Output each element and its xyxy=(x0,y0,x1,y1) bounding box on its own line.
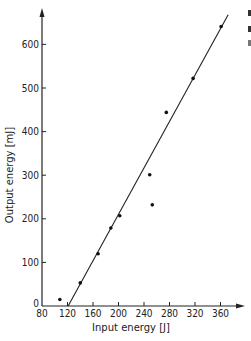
cropped-text-fragment xyxy=(248,26,251,32)
x-ticks: 80120160200240280320360 xyxy=(36,302,229,319)
fit-line xyxy=(68,15,228,306)
y-tick-label: 200 xyxy=(22,213,39,224)
y-axis-arrow-icon xyxy=(40,8,45,17)
x-tick-label: 200 xyxy=(110,308,127,319)
y-axis-title: Output energy [mJ] xyxy=(4,127,15,224)
data-point xyxy=(165,111,169,115)
x-tick-label: 280 xyxy=(161,308,178,319)
cropped-text-fragment xyxy=(248,10,251,16)
y-tick-label: 100 xyxy=(22,257,39,268)
y-tick-label: 500 xyxy=(22,83,39,94)
y-tick-label: 300 xyxy=(22,170,39,181)
data-point xyxy=(150,203,154,207)
axes xyxy=(40,8,246,309)
x-tick-label: 120 xyxy=(59,308,76,319)
data-point xyxy=(148,173,152,177)
data-points xyxy=(58,25,223,302)
data-point xyxy=(191,77,195,81)
x-tick-label: 80 xyxy=(36,308,48,319)
data-point xyxy=(109,226,113,230)
x-tick-label: 160 xyxy=(84,308,101,319)
data-point xyxy=(118,214,122,218)
data-point xyxy=(78,281,82,285)
x-tick-label: 360 xyxy=(212,308,229,319)
y-tick-label: 600 xyxy=(22,39,39,50)
x-axis-title: Input energy [J] xyxy=(92,322,170,333)
x-tick-label: 320 xyxy=(186,308,203,319)
x-tick-label: 240 xyxy=(135,308,152,319)
chart: 0100200300400500600 80120160200240280320… xyxy=(0,0,251,341)
fit-line-path xyxy=(68,15,228,306)
cropped-text-fragment xyxy=(248,40,251,46)
data-point xyxy=(219,25,223,29)
data-point xyxy=(58,298,62,302)
x-axis-arrow-icon xyxy=(236,304,245,309)
data-point xyxy=(96,252,100,256)
y-tick-label: 400 xyxy=(22,126,39,137)
